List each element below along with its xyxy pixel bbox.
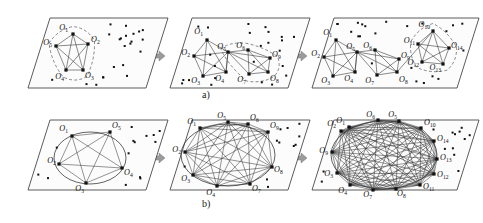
scatter-dot — [357, 22, 359, 24]
scatter-dot — [95, 84, 97, 86]
graph-node — [86, 42, 89, 45]
plane-parallelogram — [28, 18, 168, 88]
scatter-dot — [133, 33, 135, 35]
scatter-dot — [295, 144, 297, 146]
graph-node — [348, 183, 351, 186]
graph-node — [331, 74, 334, 77]
node-label: O1 — [336, 116, 345, 126]
scatter-dot — [261, 81, 263, 83]
row-b-panel-1: O1O5O4O3O2 — [28, 120, 168, 194]
scatter-dot — [452, 132, 454, 134]
graph-node — [183, 150, 186, 153]
graph-node — [322, 55, 325, 58]
scatter-dot — [357, 35, 359, 37]
row-label-a: a) — [202, 89, 210, 100]
scatter-dot — [129, 43, 131, 45]
scatter-dot — [423, 82, 425, 84]
row-a-panel-2: O1O2O3O4O5O6O7O8O9 — [170, 18, 310, 88]
scatter-dot — [276, 140, 278, 142]
row-label-b: b) — [202, 198, 210, 209]
scatter-dot — [281, 36, 283, 38]
graph-node — [397, 119, 400, 122]
node-label: O7 — [363, 190, 372, 200]
scatter-dot — [146, 135, 148, 137]
scatter-dot — [410, 67, 412, 69]
graph-node — [375, 73, 378, 76]
scatter-dot — [452, 147, 454, 149]
scatter-dot — [336, 23, 338, 25]
scatter-dot — [159, 130, 161, 132]
scatter-dot — [457, 170, 459, 172]
scatter-dot — [125, 25, 127, 27]
scatter-dot — [124, 45, 126, 47]
graph-node — [71, 32, 74, 35]
graph-node — [371, 188, 374, 191]
row-a-panel-3: O1O2O3O4O5O6O7O8O9O10O11O12O13O14 — [311, 18, 479, 88]
scatter-dot — [432, 75, 434, 77]
graph-node — [57, 162, 60, 165]
node-label: O6 — [366, 110, 375, 120]
scatter-dot — [282, 65, 284, 67]
scatter-dot — [131, 126, 133, 128]
scatter-dot — [278, 142, 280, 144]
scatter-dot — [371, 62, 373, 64]
scatter-dot — [350, 31, 352, 33]
scatter-dot — [249, 32, 251, 34]
row-b-panel-3: O1O2O6O5O10O14O13O12O11O8O7O4O3O9 — [312, 110, 479, 200]
graph-node — [201, 74, 204, 77]
scatter-dot — [253, 61, 255, 63]
scatter-dot — [271, 84, 273, 86]
node-label: O10 — [424, 118, 436, 128]
scatter-dot — [188, 79, 190, 81]
scatter-dot — [461, 127, 463, 129]
graph-node — [247, 72, 250, 75]
scatter-dot — [268, 31, 270, 33]
scatter-dot — [280, 128, 282, 130]
scatter-dot — [247, 23, 249, 25]
scatter-dot — [207, 27, 209, 29]
scatter-dot — [454, 133, 456, 135]
scatter-dot — [293, 36, 295, 38]
graph-node — [435, 157, 438, 160]
graph-node — [373, 48, 376, 51]
scatter-dot — [452, 24, 454, 26]
scatter-dot — [406, 25, 408, 27]
scatter-dot — [131, 41, 133, 43]
scatter-dot — [47, 177, 49, 179]
graph-node — [335, 171, 338, 174]
scatter-dot — [138, 31, 140, 33]
scatter-dot — [153, 134, 155, 136]
graph-node — [432, 139, 435, 142]
graph-node — [108, 130, 111, 133]
scatter-dot — [154, 141, 156, 143]
scatter-dot — [459, 131, 461, 133]
graph-node — [419, 126, 422, 129]
node-label: O1 — [187, 117, 196, 127]
scatter-dot — [122, 64, 124, 66]
graph-node — [246, 122, 249, 125]
scatter-dot — [287, 127, 289, 129]
graph-node — [70, 134, 73, 137]
scatter-dot — [134, 141, 136, 143]
scatter-dot — [140, 51, 142, 53]
scatter-dot — [128, 152, 130, 154]
scatter-dot — [142, 29, 144, 31]
scatter-dot — [281, 39, 283, 41]
graph-node — [64, 68, 67, 71]
graph-node — [205, 38, 208, 41]
scatter-dot — [125, 35, 127, 37]
node-label: O5 — [217, 111, 226, 121]
graph-node — [191, 173, 194, 176]
scatter-dot — [298, 135, 300, 137]
scatter-dot — [210, 84, 212, 86]
graph-node — [376, 118, 379, 121]
scatter-dot — [293, 145, 295, 147]
graph-node — [420, 60, 423, 63]
scatter-dot — [260, 45, 262, 47]
figure-canvas: O1O2O3O4O5O1O2O3O4O5O6O7O8O9O1O2O3O4O5O6… — [0, 0, 483, 223]
graph-node — [192, 54, 195, 57]
scatter-dot — [267, 42, 269, 44]
graph-node — [224, 70, 227, 73]
graph-node — [347, 125, 350, 128]
node-label: O6 — [250, 113, 259, 123]
